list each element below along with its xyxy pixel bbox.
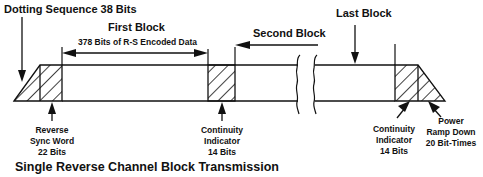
continuity-indicator-2-and-ramp (395, 65, 445, 101)
continuity-indicator-1-label: Continuity Indicator 14 Bits (190, 125, 254, 158)
last-block-label: Last Block (336, 7, 392, 19)
continuity-indicator-2-label: Continuity Indicator 14 Bits (362, 124, 426, 157)
dotting-arrow (18, 17, 26, 82)
first-block-label: First Block (108, 21, 165, 33)
sync-word-arrow (48, 102, 56, 121)
block-body-right (315, 65, 395, 101)
second-block-arrow (235, 41, 318, 49)
diagram-title: Single Reverse Channel Block Transmissio… (15, 160, 279, 174)
first-block-sublabel: 378 Bits of R-S Encoded Data (78, 37, 197, 47)
continuity-indicator-1 (208, 65, 235, 101)
ci1-arrow (218, 102, 226, 121)
ci2-arrow (397, 101, 410, 118)
second-block-label: Second Block (253, 27, 326, 39)
ramp-arrow (428, 101, 441, 117)
sync-word-label: Reverse Sync Word 22 Bits (22, 125, 82, 158)
first-block-span-arrow (62, 49, 208, 57)
power-ramp-down-label: Power Ramp Down 20 Bit-Times (420, 116, 482, 149)
dotting-sequence-label: Dotting Sequence 38 Bits (4, 3, 137, 15)
last-block-arrow (351, 25, 359, 64)
break-marks (296, 55, 317, 114)
block-body-left (62, 65, 298, 101)
